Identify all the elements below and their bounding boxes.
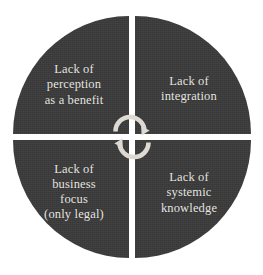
quadrant-top-right-label: Lack of integration [161, 74, 217, 105]
diagram-canvas: Lack of perception as a benefit Lack of … [0, 0, 263, 275]
quadrant-wheel: Lack of perception as a benefit Lack of … [13, 16, 251, 258]
quadrant-bottom-left-label: Lack of business focus (only legal) [44, 162, 104, 223]
quadrant-top-left[interactable]: Lack of perception as a benefit [13, 16, 129, 134]
quadrant-bottom-right-label: Lack of systemic knowledge [161, 170, 217, 216]
quadrant-top-left-label: Lack of perception as a benefit [45, 62, 104, 108]
quadrant-bottom-left[interactable]: Lack of business focus (only legal) [13, 140, 129, 258]
quadrant-bottom-right[interactable]: Lack of systemic knowledge [135, 140, 251, 258]
quadrant-top-right[interactable]: Lack of integration [135, 16, 251, 134]
